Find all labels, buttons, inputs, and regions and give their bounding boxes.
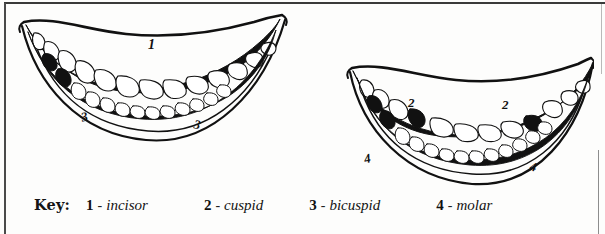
page-rule-left [4, 3, 6, 234]
dental-anatomy-figure: 1 3 3 [0, 0, 605, 234]
key-entry-molar: 4 - molar [436, 197, 492, 214]
key-entry-term: incisor [106, 197, 148, 214]
key-entry-number: 2 [204, 197, 212, 214]
page-rule-top [4, 2, 605, 4]
key-entry-number: 4 [436, 197, 444, 214]
key-entry-dash: - [444, 198, 457, 214]
label-cuspid-right-2: 2 [502, 98, 509, 111]
key-label: Key: [34, 196, 70, 213]
key-entry-incisor: 1 - incisor [86, 197, 148, 214]
key-entry-dash: - [317, 198, 330, 214]
key-entry-term: bicuspid [329, 197, 380, 214]
key-entry-cuspid: 2 - cuspid [204, 197, 263, 214]
key-entry-term: molar [456, 197, 492, 214]
key-entry-term: cuspid [224, 197, 263, 214]
key-entry-dash: - [211, 198, 224, 214]
key-legend: Key: 1 - incisor 2 - cuspid 3 - bicuspid… [34, 196, 582, 222]
label-incisor-1: 1 [148, 38, 155, 52]
page-rule-right [598, 150, 599, 234]
key-entry-bicuspid: 3 - bicuspid [309, 197, 380, 214]
page-rule-right-top [601, 4, 602, 74]
label-cuspid-left-2: 2 [408, 96, 415, 109]
key-entry-number: 3 [309, 197, 317, 214]
mouth-diagram-right: 2 2 4 4 [312, 46, 594, 188]
key-entry-number: 1 [86, 197, 94, 214]
key-entry-dash: - [94, 198, 107, 214]
mouth-diagram-left: 1 3 3 [14, 6, 292, 152]
